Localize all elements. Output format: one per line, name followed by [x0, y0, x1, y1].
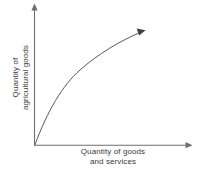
- y-axis-arrowhead-icon: [31, 4, 37, 11]
- y-axis-label-line2: agricultural goods: [20, 18, 30, 138]
- curve-path: [35, 33, 139, 145]
- y-axis-label-line1: Quantity of: [11, 58, 20, 98]
- curve-arrowhead-icon: [137, 29, 146, 36]
- y-axis: [31, 4, 37, 146]
- chart-figure: Quantity of goods and services Quantity …: [0, 0, 201, 179]
- x-axis-label: Quantity of goods and services: [34, 147, 192, 166]
- x-axis-label-line2: and services: [34, 157, 192, 167]
- x-axis-label-line1: Quantity of goods: [81, 147, 145, 156]
- y-axis-label: Quantity of agricultural goods: [11, 18, 30, 138]
- data-curve: [35, 29, 146, 146]
